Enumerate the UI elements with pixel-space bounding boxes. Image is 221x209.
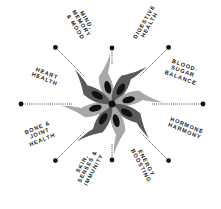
spoke-endpoint-dot-icon xyxy=(166,45,171,50)
spoke-endpoint-dot-icon xyxy=(53,45,58,50)
spoke-endpoint-dot-icon xyxy=(53,158,58,163)
wheel-graphics xyxy=(0,0,221,209)
dotted-connector xyxy=(55,132,83,160)
spoke-endpoint-dot-icon xyxy=(166,158,171,163)
spoke-endpoint-dot-icon xyxy=(201,102,206,107)
wellness-wheel-diagram: MIND, MEMORY & MOOD DIGESTIVE HEALTH BLO… xyxy=(0,0,221,209)
spoke-endpoint-dot-icon xyxy=(110,158,115,163)
flower-center-icon xyxy=(109,101,116,108)
spoke-endpoint-dot-icon xyxy=(110,46,115,51)
spoke-endpoint-dot-icon xyxy=(19,102,24,107)
dotted-connector xyxy=(55,47,83,75)
